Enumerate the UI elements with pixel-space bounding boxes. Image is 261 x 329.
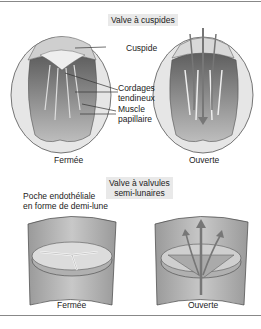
pocket-label-line2: en forme de demi-lune [23,201,108,211]
pocket-label-line1: Poche endothéliale [23,191,95,201]
semilunar-title-line2: semi-lunaires [109,188,170,198]
semilunar-valve-closed [28,216,116,305]
cuspid-valve-open [153,28,253,153]
semilunar-closed-caption: Fermée [57,300,86,310]
semilunar-valve-title: Valve à valvules semi-lunaires [106,177,173,199]
semilunar-title-line1: Valve à valvules [109,178,170,188]
cuspid-valve-title: Valve à cuspides [108,14,178,26]
cuspid-closed-caption: Fermée [54,155,83,165]
cordages-label-line1: Cordages [118,83,155,93]
muscle-label-line1: Muscle [118,104,145,114]
muscle-label-line2: papillaire [118,114,152,124]
cuspid-valve-closed [11,37,118,154]
cuspide-label: Cuspide [126,43,157,53]
semilunar-valve-open [155,216,248,305]
cuspid-open-caption: Ouverte [189,155,219,165]
cordages-label-line2: tendineux [118,93,155,103]
semilunar-open-caption: Ouverte [188,300,218,310]
